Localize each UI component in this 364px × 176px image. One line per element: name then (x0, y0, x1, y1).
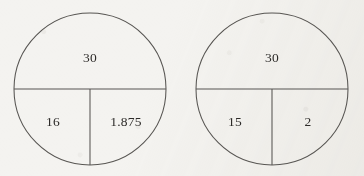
right-circle-bottom-left-value: 15 (228, 114, 242, 129)
left-circle: 30 16 1.875 (0, 0, 182, 176)
left-circle-bottom-left-value: 16 (46, 114, 60, 129)
right-circle-top-value: 30 (265, 50, 279, 65)
right-circle-bottom-right-value: 2 (305, 114, 312, 129)
left-circle-top-value: 30 (83, 50, 97, 65)
right-circle: 30 15 2 (182, 0, 364, 176)
left-circle-bottom-right-value: 1.875 (110, 114, 141, 129)
circle-diagram-figure: 30 16 1.875 30 15 2 (0, 0, 364, 176)
